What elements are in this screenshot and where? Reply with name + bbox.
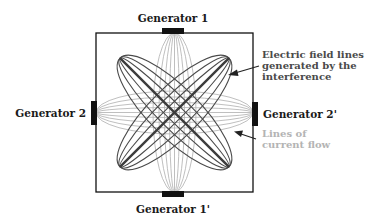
field-lines-arrow (228, 66, 259, 76)
generator-2-prime-electrode (252, 102, 258, 126)
generator-2-prime-label: Generator 2' (263, 108, 337, 120)
generator-2-label: Generator 2 (15, 107, 86, 119)
generator-1-label: Generator 1 (138, 12, 209, 24)
generator-1-electrode (162, 28, 184, 34)
field-lines-annotation-line-1: Electric field lines (262, 49, 364, 60)
generator-1-prime-label: Generator 1' (136, 203, 210, 215)
current-flow-annotation-line-1: Lines of (262, 128, 307, 139)
interferential-current-diagram: Generator 1 Generator 1' Generator 2 Gen… (0, 0, 381, 221)
current-flow-annotation-line-2: current flow (262, 139, 331, 150)
field-lines-annotation-line-2: generated by the (262, 60, 357, 71)
field-lines-annotation-line-3: interference (262, 71, 331, 82)
generator-1-prime-electrode (162, 191, 184, 197)
generator-2-electrode (91, 101, 97, 125)
